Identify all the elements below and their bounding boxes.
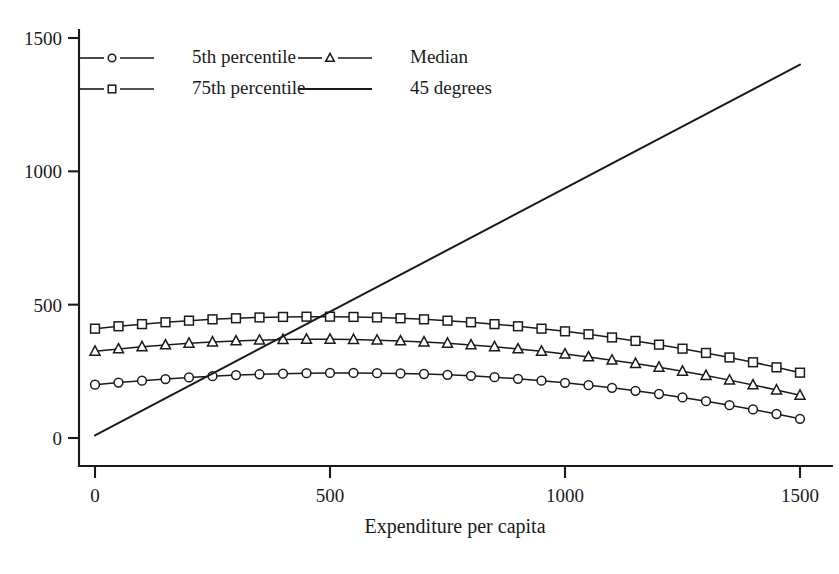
y-tick-label: 1500 <box>24 28 62 49</box>
y-axis: 050010001500 <box>24 28 79 466</box>
marker-square <box>232 314 241 323</box>
y-axis-ticks <box>68 38 79 438</box>
marker-circle <box>161 375 170 384</box>
marker-square <box>185 316 194 325</box>
marker-square <box>631 337 640 346</box>
marker-circle <box>749 405 758 414</box>
marker-circle <box>255 370 264 379</box>
marker-circle <box>655 390 664 399</box>
marker-square <box>91 324 100 333</box>
marker-circle <box>678 393 687 402</box>
legend-item: 45 degrees <box>298 77 492 98</box>
marker-square <box>584 330 593 339</box>
series-triangle <box>90 334 805 399</box>
marker-square <box>279 313 288 322</box>
marker-circle <box>490 373 499 382</box>
marker-square <box>420 315 429 324</box>
marker-circle <box>420 370 429 379</box>
marker-circle <box>584 381 593 390</box>
marker-circle <box>772 410 781 419</box>
marker-triangle <box>325 334 335 343</box>
y-tick-label: 0 <box>53 428 63 449</box>
marker-circle <box>302 369 311 378</box>
marker-square <box>302 312 311 321</box>
marker-square <box>114 322 123 331</box>
marker-square <box>373 313 382 322</box>
legend-label: 45 degrees <box>410 77 492 98</box>
marker-circle <box>349 369 358 378</box>
marker-square <box>537 324 546 333</box>
marker-square <box>702 349 711 358</box>
legend-item: Median <box>298 46 469 67</box>
marker-square <box>255 313 264 322</box>
legend-label: 75th percentile <box>192 77 305 98</box>
marker-square <box>678 344 687 353</box>
legend-label: Median <box>410 46 469 67</box>
chart-legend: 5th percentileMedian75th percentile45 de… <box>80 46 492 98</box>
marker-circle <box>467 371 476 380</box>
marker-circle <box>796 414 805 423</box>
marker-square <box>772 363 781 372</box>
y-axis-tick-labels: 050010001500 <box>24 28 62 449</box>
x-tick-label: 0 <box>90 485 100 506</box>
marker-circle <box>279 369 288 378</box>
marker-square <box>608 333 617 342</box>
marker-square <box>725 353 734 362</box>
chart-canvas: 050010001500 050010001500 Expenditure pe… <box>0 0 839 574</box>
marker-square <box>655 340 664 349</box>
x-tick-label: 1000 <box>546 485 584 506</box>
marker-square <box>467 318 476 327</box>
marker-square <box>138 320 147 329</box>
marker-square <box>108 85 116 93</box>
marker-square <box>161 318 170 327</box>
marker-triangle <box>326 53 335 61</box>
x-axis-tick-labels: 050010001500 <box>90 485 819 506</box>
marker-circle <box>108 54 116 62</box>
marker-circle <box>373 369 382 378</box>
marker-square <box>796 368 805 377</box>
marker-circle <box>138 376 147 385</box>
marker-circle <box>537 376 546 385</box>
marker-circle <box>185 373 194 382</box>
marker-circle <box>114 378 123 387</box>
marker-triangle <box>302 334 312 343</box>
data-series-layer <box>90 312 805 423</box>
marker-square <box>514 322 523 331</box>
y-tick-label: 1000 <box>24 161 62 182</box>
marker-circle <box>443 370 452 379</box>
x-axis: 050010001500 Expenditure per capita <box>79 466 832 538</box>
marker-square <box>749 358 758 367</box>
chart-figure: 050010001500 050010001500 Expenditure pe… <box>0 0 839 574</box>
marker-circle <box>514 374 523 383</box>
marker-circle <box>702 397 711 406</box>
marker-square <box>443 316 452 325</box>
marker-square <box>208 315 217 324</box>
marker-circle <box>91 380 100 389</box>
marker-square <box>490 320 499 329</box>
x-tick-label: 1500 <box>781 485 819 506</box>
marker-square <box>561 327 570 336</box>
marker-circle <box>725 401 734 410</box>
legend-item: 75th percentile <box>80 77 305 98</box>
marker-circle <box>232 371 241 380</box>
x-tick-label: 500 <box>316 485 345 506</box>
x-axis-title: Expenditure per capita <box>364 515 545 538</box>
marker-circle <box>326 369 335 378</box>
marker-circle <box>608 383 617 392</box>
marker-circle <box>396 369 405 378</box>
marker-square <box>396 314 405 323</box>
y-tick-label: 500 <box>34 295 63 316</box>
marker-square <box>349 313 358 322</box>
marker-circle <box>561 378 570 387</box>
legend-label: 5th percentile <box>192 46 296 67</box>
marker-circle <box>631 386 640 395</box>
x-axis-ticks <box>95 466 800 478</box>
legend-item: 5th percentile <box>80 46 296 67</box>
series-circle <box>91 369 805 424</box>
